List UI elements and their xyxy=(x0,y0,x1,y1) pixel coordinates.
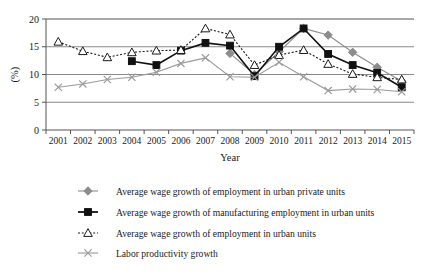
legend-label-1: Average wage growth of employment in urb… xyxy=(116,186,345,197)
x-tick-label-2014: 2014 xyxy=(368,136,387,146)
y-tick-label-10: 10 xyxy=(29,69,39,80)
x-tick-label-2002: 2002 xyxy=(73,136,92,146)
x-tick-label-2008: 2008 xyxy=(221,136,240,146)
legend-item-1[interactable]: Average wage growth of employment in urb… xyxy=(78,186,345,197)
chart-figure: 0510152020012002200320042005200620072008… xyxy=(0,0,430,273)
x-tick-label-2013: 2013 xyxy=(343,136,362,146)
datapoint-3-2012 xyxy=(324,60,333,68)
x-tick-label-2007: 2007 xyxy=(196,136,215,146)
datapoint-3-2013 xyxy=(348,70,357,78)
x-tick-label-2001: 2001 xyxy=(49,136,68,146)
datapoint-2-2004 xyxy=(128,58,135,65)
x-tick-label-2015: 2015 xyxy=(392,136,411,146)
y-tick-label-0: 0 xyxy=(34,125,39,136)
legend-label-2: Average wage growth of manufacturing emp… xyxy=(116,207,375,218)
x-tick-label-2009: 2009 xyxy=(245,136,264,146)
datapoint-3-2001 xyxy=(54,37,63,45)
line-chart: 0510152020012002200320042005200620072008… xyxy=(0,0,430,273)
x-tick-label-2003: 2003 xyxy=(98,136,117,146)
datapoint-3-2004 xyxy=(128,48,137,56)
datapoint-3-2002 xyxy=(79,47,88,55)
x-tick-label-2011: 2011 xyxy=(294,136,313,146)
y-axis-title: (%) xyxy=(9,66,21,82)
x-tick-label-2006: 2006 xyxy=(171,136,190,146)
legend-diamond-marker-1 xyxy=(84,187,92,195)
datapoint-3-2008 xyxy=(226,30,235,38)
y-tick-label-20: 20 xyxy=(29,14,39,25)
y-tick-label-15: 15 xyxy=(29,41,39,52)
x-tick-label-2010: 2010 xyxy=(270,136,289,146)
datapoint-1-2013 xyxy=(348,48,356,56)
x-axis-title: Year xyxy=(220,152,240,163)
series-2 xyxy=(128,25,405,91)
x-tick-label-2012: 2012 xyxy=(319,136,338,146)
legend-item-3[interactable]: Average wage growth of employment in urb… xyxy=(78,228,316,239)
legend-item-4[interactable]: Labor productivity growth xyxy=(78,248,218,259)
datapoint-2-2013 xyxy=(349,62,356,69)
datapoint-2-2012 xyxy=(325,51,332,58)
datapoint-2-2010 xyxy=(276,43,283,50)
datapoint-2-2007 xyxy=(202,39,209,46)
legend-label-4: Labor productivity growth xyxy=(116,248,218,259)
datapoint-2-2005 xyxy=(153,62,160,69)
datapoint-1-2012 xyxy=(324,31,332,39)
y-tick-label-5: 5 xyxy=(34,97,39,108)
legend-square-marker-2 xyxy=(85,209,92,216)
datapoint-2-2011 xyxy=(300,25,307,32)
legend-item-2[interactable]: Average wage growth of manufacturing emp… xyxy=(78,207,375,218)
x-tick-label-2005: 2005 xyxy=(147,136,166,146)
legend-label-3: Average wage growth of employment in urb… xyxy=(116,228,316,239)
datapoint-2-2008 xyxy=(227,42,234,49)
x-tick-label-2004: 2004 xyxy=(122,136,141,146)
datapoint-3-2007 xyxy=(201,24,210,32)
